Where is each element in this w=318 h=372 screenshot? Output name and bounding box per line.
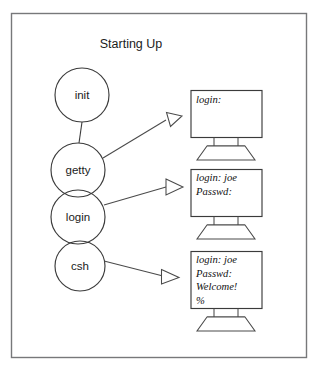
starting-up-diagram: Starting Up init getty login csh — [0, 0, 318, 372]
arrow-csh-to-terminal-3 — [104, 261, 179, 284]
arrow-login-head — [166, 179, 183, 195]
connector-init-getty — [79, 122, 82, 143]
node-login-label: login — [66, 211, 90, 223]
terminal-shell-prompt: login: joe Passwd: Welcome! % — [191, 252, 262, 332]
terminal-2-line-1: Passwd: — [195, 186, 232, 197]
terminal-3-line-1: Passwd: — [195, 268, 232, 279]
arrow-getty-head — [167, 113, 183, 127]
node-init: init — [55, 68, 109, 122]
node-getty: getty — [51, 143, 105, 197]
terminal-3-line-0: login: joe — [196, 254, 237, 265]
terminal-3-base — [197, 317, 255, 331]
terminal-3-line-2: Welcome! — [196, 281, 238, 292]
node-init-label: init — [75, 89, 91, 101]
node-csh-label: csh — [71, 260, 89, 272]
terminal-login-prompt: login: — [191, 91, 262, 161]
arrow-csh-line — [104, 261, 163, 276]
terminal-3-line-3: % — [196, 295, 205, 306]
terminal-1-line-0: login: — [196, 94, 221, 105]
arrow-csh-head — [162, 270, 180, 285]
node-getty-label: getty — [66, 164, 91, 176]
node-login: login — [51, 190, 105, 244]
page-title: Starting Up — [100, 37, 163, 51]
node-csh: csh — [55, 241, 105, 291]
terminal-1-base — [197, 146, 255, 160]
arrow-login-line — [104, 187, 166, 205]
arrow-getty-to-terminal-1 — [103, 113, 182, 159]
arrow-login-to-terminal-2 — [104, 179, 183, 205]
terminal-2-base — [197, 225, 255, 239]
terminal-2-line-0: login: joe — [196, 172, 237, 183]
terminal-password-prompt: login: joe Passwd: — [191, 170, 262, 240]
arrow-getty-line — [103, 120, 166, 158]
